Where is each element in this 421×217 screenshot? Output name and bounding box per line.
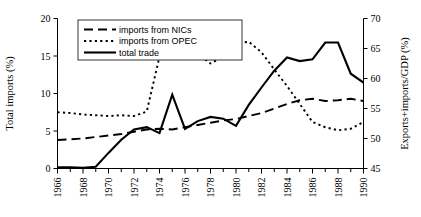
y-axis-title-right: Exports+imports/GDP (%) — [399, 37, 411, 150]
x-ticklabel: 1986 — [307, 178, 318, 198]
x-ticklabel: 1970 — [103, 178, 114, 198]
x-ticklabel: 1980 — [231, 178, 242, 198]
x-ticklabel: 1990 — [358, 178, 369, 198]
y-ticklabel-left: 5 — [46, 126, 51, 137]
legend-label: total trade — [119, 48, 159, 58]
y-ticklabel-left: 10 — [41, 88, 51, 99]
y-ticklabel-left: 15 — [41, 51, 51, 62]
y-ticklabel-right: 65 — [371, 43, 381, 54]
y-ticklabel-right: 45 — [371, 163, 381, 174]
x-ticklabel: 1978 — [205, 178, 216, 198]
y-axis-title-left: Total imports (%) — [4, 56, 16, 131]
x-ticklabel: 1984 — [282, 178, 293, 198]
y-ticklabel-right: 55 — [371, 103, 381, 114]
chart-container: 0510152045505560657019661968197019721974… — [0, 0, 421, 217]
x-ticklabel: 1982 — [256, 178, 267, 198]
series-line-imports-from-nics — [58, 99, 364, 140]
y-ticklabel-right: 60 — [371, 73, 381, 84]
x-ticklabel: 1966 — [52, 178, 63, 198]
y-ticklabel-right: 50 — [371, 133, 381, 144]
line-chart: 0510152045505560657019661968197019721974… — [0, 0, 421, 217]
y-ticklabel-left: 0 — [46, 163, 51, 174]
x-ticklabel: 1968 — [78, 178, 89, 198]
y-ticklabel-right: 70 — [371, 13, 381, 24]
y-ticklabel-left: 20 — [41, 13, 51, 24]
series-line-total-trade — [58, 43, 364, 168]
x-ticklabel: 1974 — [154, 178, 165, 198]
x-ticklabel: 1972 — [129, 178, 140, 198]
legend-label: imports from OPEC — [119, 36, 198, 46]
legend-label: imports from NICs — [119, 25, 192, 35]
x-ticklabel: 1976 — [180, 178, 191, 198]
x-ticklabel: 1988 — [333, 178, 344, 198]
